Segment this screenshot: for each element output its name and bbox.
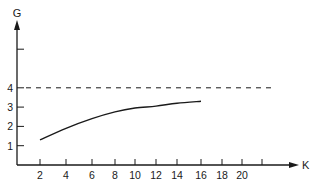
y-tick-label: 1 bbox=[7, 140, 13, 152]
y-tick-label: 4 bbox=[7, 82, 13, 94]
x-axis-ticks: 2468101214161820 bbox=[37, 159, 262, 181]
x-tick-label: 18 bbox=[216, 169, 228, 181]
y-axis-ticks: 1234 bbox=[7, 49, 24, 152]
y-axis-label: G bbox=[13, 7, 22, 19]
y-tick-label: 2 bbox=[7, 120, 13, 132]
x-tick-label: 8 bbox=[112, 169, 118, 181]
x-axis-arrow-icon bbox=[289, 162, 299, 168]
chart: G K 2468101214161820 1234 bbox=[0, 0, 315, 186]
x-axis-label: K bbox=[302, 159, 310, 171]
x-tick-label: 6 bbox=[89, 169, 95, 181]
x-tick-label: 12 bbox=[150, 169, 162, 181]
x-tick-label: 10 bbox=[129, 169, 141, 181]
chart-canvas: G K 2468101214161820 1234 bbox=[0, 0, 315, 186]
x-tick-label: 4 bbox=[63, 169, 69, 181]
y-tick-label: 3 bbox=[7, 101, 13, 113]
x-tick-label: 16 bbox=[195, 169, 207, 181]
x-tick-label: 14 bbox=[171, 169, 183, 181]
data-series bbox=[40, 101, 201, 140]
x-tick-label: 20 bbox=[236, 169, 248, 181]
y-axis-arrow-icon bbox=[14, 20, 20, 30]
x-tick-label: 2 bbox=[37, 169, 43, 181]
g-curve-line bbox=[40, 101, 201, 140]
